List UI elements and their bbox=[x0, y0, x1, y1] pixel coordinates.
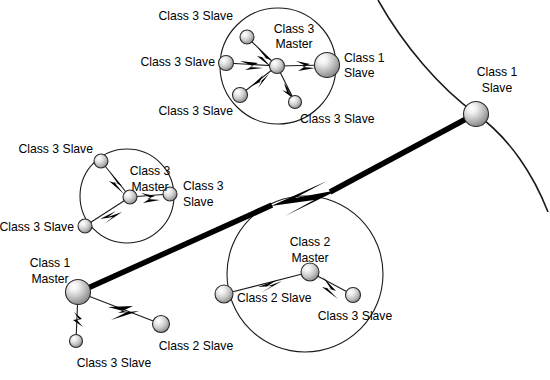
label-top-master-line2: Master bbox=[275, 37, 312, 51]
node-class1-master[interactable] bbox=[66, 280, 91, 305]
lightning-bolt-thick-icon bbox=[271, 181, 338, 216]
node-top-slave-upper[interactable] bbox=[240, 30, 254, 44]
label-mid-slave-lower: Class 3 Slave bbox=[0, 220, 74, 234]
label-bl-class2-slave: Class 2 Slave bbox=[159, 339, 234, 353]
label-class1-master-line1: Class 1 bbox=[30, 256, 71, 270]
node-top-slave-bottom[interactable] bbox=[289, 96, 302, 109]
label-top-slave-left: Class 3 Slave bbox=[140, 55, 215, 69]
lightning-bolt-icon-mid-upper bbox=[109, 172, 124, 194]
node-top-master[interactable] bbox=[270, 59, 285, 74]
label-br-master-line2: Master bbox=[291, 251, 328, 265]
label-top-slave-lower: Class 3 Slave bbox=[158, 104, 233, 118]
scatternet-arc bbox=[378, 0, 548, 212]
thick-link-class1-master-to-class1-slave bbox=[88, 119, 466, 288]
label-top-class1-slave-line2: Slave bbox=[344, 66, 375, 80]
label-mid-slave-right-line1: Class 3 bbox=[183, 179, 224, 193]
label-br-class2-slave: Class 2 Slave bbox=[237, 291, 312, 305]
node-bl-class3-slave[interactable] bbox=[70, 335, 83, 348]
label-top-slave-upper: Class 3 Slave bbox=[158, 9, 233, 23]
label-right-class1-slave-line1: Class 1 bbox=[477, 65, 518, 79]
label-top-master-line1: Class 3 bbox=[274, 22, 315, 36]
lightning-bolt-icon-mid-lower bbox=[100, 211, 122, 224]
label-br-class3-slave: Class 3 Slave bbox=[318, 309, 393, 323]
label-mid-slave-right-line2: Slave bbox=[183, 195, 214, 209]
lightning-bolt-icon-bl-class2 bbox=[108, 306, 139, 320]
node-right-class1-slave[interactable] bbox=[464, 102, 489, 127]
label-bl-class3-slave: Class 3 Slave bbox=[77, 356, 152, 370]
label-mid-master-line1: Class 3 bbox=[130, 164, 171, 178]
label-top-slave-bottom: Class 3 Slave bbox=[300, 112, 375, 126]
label-right-class1-slave-line2: Slave bbox=[482, 81, 513, 95]
node-mid-slave-upper[interactable] bbox=[94, 154, 108, 168]
label-mid-slave-upper: Class 3 Slave bbox=[18, 142, 93, 156]
node-br-class2-slave[interactable] bbox=[215, 285, 233, 303]
label-mid-master-line2: Master bbox=[131, 180, 168, 194]
label-top-class1-slave-line1: Class 1 bbox=[344, 51, 385, 65]
thick-link-segment-upper bbox=[330, 119, 466, 192]
node-top-class1-slave[interactable] bbox=[315, 53, 340, 78]
label-class1-master-line2: Master bbox=[31, 272, 68, 286]
diagram-canvas: Class 3 Master Class 3 Slave Class 3 Sla… bbox=[0, 0, 550, 380]
node-br-class3-slave[interactable] bbox=[346, 288, 361, 303]
node-bl-class2-slave[interactable] bbox=[153, 316, 170, 333]
node-mid-slave-lower[interactable] bbox=[78, 219, 92, 233]
lightning-bolt-icon-bl-class3 bbox=[73, 312, 83, 327]
label-br-master-line1: Class 2 bbox=[290, 235, 331, 249]
thick-link-segment-lower bbox=[88, 205, 272, 288]
node-br-master[interactable] bbox=[301, 263, 319, 281]
network-topology-diagram: Class 3 Master Class 3 Slave Class 3 Sla… bbox=[0, 0, 550, 380]
node-top-slave-lower[interactable] bbox=[233, 88, 248, 103]
lightning-bolt-icon-top-lower bbox=[252, 74, 269, 88]
node-top-slave-left[interactable] bbox=[219, 56, 234, 71]
